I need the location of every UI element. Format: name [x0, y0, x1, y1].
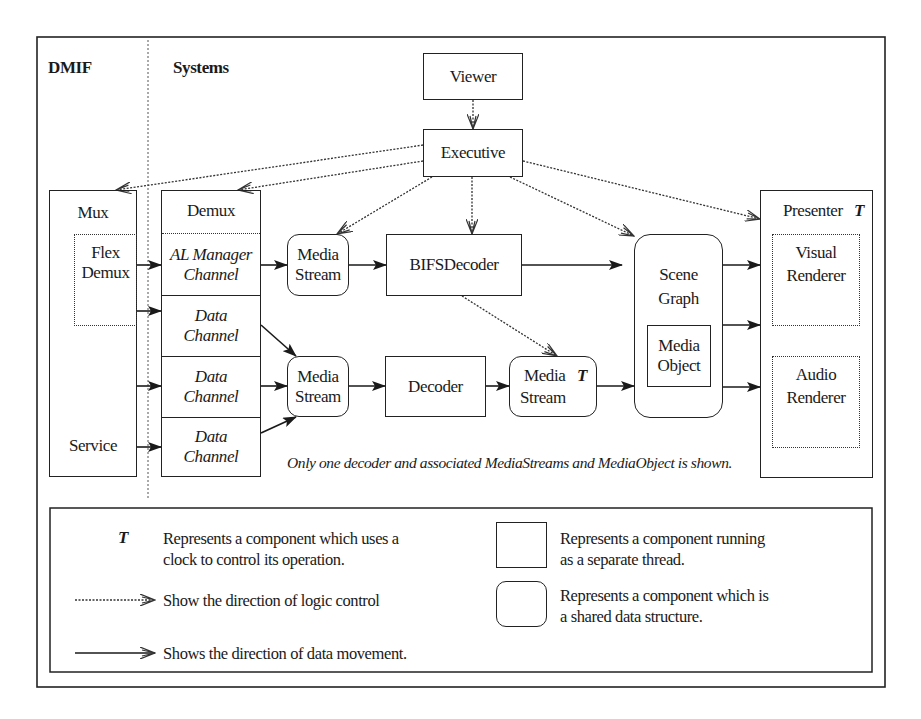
media-stream-3-line2: Stream [520, 388, 566, 408]
legend-data-movement-desc: Shows the direction of data movement. [163, 643, 407, 664]
legend-shared-desc-line2: a shared data structure. [560, 606, 703, 627]
legend-shared-desc-line1: Represents a component which is [560, 585, 768, 606]
data-channel-1-line2: Channel [184, 326, 239, 346]
visual-renderer-line2: Renderer [773, 266, 859, 286]
media-stream-1-line1: Media [297, 245, 338, 265]
data-channel-1: Data Channel [161, 295, 261, 356]
legend-thread-desc-line1: Represents a component running [560, 528, 765, 549]
media-stream-1-line2: Stream [295, 265, 341, 285]
data-channel-3-line1: Data [195, 427, 227, 447]
media-stream-2: Media Stream [287, 356, 349, 417]
media-stream-2-line1: Media [297, 367, 338, 387]
media-stream-2-line2: Stream [295, 387, 341, 407]
decoder-box: Decoder [385, 356, 486, 417]
legend-shared-symbol [496, 581, 547, 627]
service-label: Service [50, 436, 136, 456]
viewer-box: Viewer [423, 53, 523, 100]
diagram-note: Only one decoder and associated MediaStr… [287, 453, 732, 473]
media-object-line1: Media [658, 336, 699, 356]
presenter-clock-marker: T [854, 201, 864, 221]
data-channel-3-line2: Channel [184, 447, 239, 467]
data-channel-1-line1: Data [195, 306, 227, 326]
al-manager-label-line1: AL Manager [170, 245, 252, 265]
region-label-systems: Systems [173, 58, 229, 78]
scene-graph-line2: Graph [635, 289, 722, 309]
media-stream-3-clock-marker: T [577, 366, 587, 386]
media-object-box: Media Object [647, 325, 711, 387]
mux-label: Mux [50, 203, 136, 223]
bifs-decoder-box: BIFSDecoder [386, 234, 522, 296]
executive-label: Executive [441, 143, 505, 163]
al-manager-label-line2: Channel [184, 265, 239, 285]
visual-renderer-box: Visual Renderer [772, 234, 860, 326]
data-channel-2: Data Channel [161, 356, 261, 417]
media-stream-3-line1: Media [524, 366, 565, 386]
legend-thread-desc-line2: as a separate thread. [560, 549, 684, 570]
legend-thread-symbol [496, 522, 547, 568]
al-manager-channel: AL Manager Channel [161, 234, 261, 295]
media-stream-3: Media T Stream [509, 356, 597, 417]
flex-demux-box: Flex Demux [74, 234, 137, 326]
flex-demux-label-line2: Demux [75, 263, 136, 283]
data-channel-3: Data Channel [161, 417, 261, 477]
data-channel-2-line1: Data [195, 367, 227, 387]
media-stream-1: Media Stream [287, 234, 349, 296]
demux-label: Demux [162, 201, 260, 221]
executive-box: Executive [423, 129, 523, 177]
legend-clock-desc-line2: clock to control its operation. [163, 549, 344, 570]
decoder-label: Decoder [408, 377, 463, 397]
region-label-dmif: DMIF [48, 58, 92, 78]
audio-renderer-line1: Audio [773, 365, 859, 385]
bifs-decoder-label: BIFSDecoder [409, 255, 498, 275]
audio-renderer-box: Audio Renderer [772, 356, 860, 448]
legend-clock-desc-line1: Represents a component which uses a [163, 528, 399, 549]
scene-graph-line1: Scene [635, 265, 722, 285]
audio-renderer-line2: Renderer [773, 388, 859, 408]
viewer-label: Viewer [450, 67, 497, 87]
legend-logic-control-desc: Show the direction of logic control [163, 590, 380, 611]
flex-demux-label-line1: Flex [75, 243, 136, 263]
visual-renderer-line1: Visual [773, 243, 859, 263]
data-channel-2-line2: Channel [184, 387, 239, 407]
media-object-line2: Object [658, 356, 701, 376]
legend-clock-symbol: T [118, 528, 128, 548]
presenter-label: Presenter [783, 201, 843, 221]
